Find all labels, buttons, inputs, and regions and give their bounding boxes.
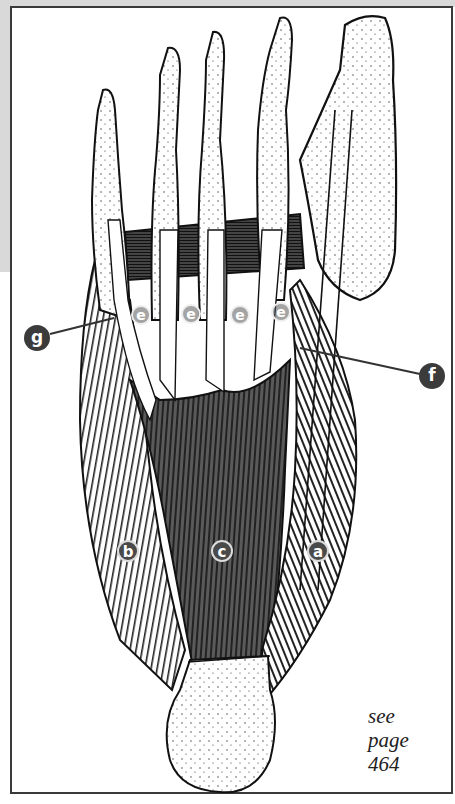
foot-anatomy-illustration bbox=[0, 0, 455, 804]
reference-page: page bbox=[368, 728, 409, 752]
page-reference: see page 464 bbox=[368, 704, 409, 776]
label-e-1: e bbox=[131, 305, 151, 325]
reference-see: see bbox=[368, 704, 409, 728]
label-c: c bbox=[211, 540, 233, 562]
label-e-3: e bbox=[230, 305, 250, 325]
label-b: b bbox=[117, 540, 139, 562]
label-f: f bbox=[419, 363, 445, 389]
label-e-4: e bbox=[271, 302, 291, 322]
heel-bone bbox=[167, 656, 275, 792]
label-g: g bbox=[24, 325, 50, 351]
reference-number: 464 bbox=[368, 752, 409, 776]
label-e-2: e bbox=[181, 304, 201, 324]
label-a: a bbox=[307, 540, 329, 562]
